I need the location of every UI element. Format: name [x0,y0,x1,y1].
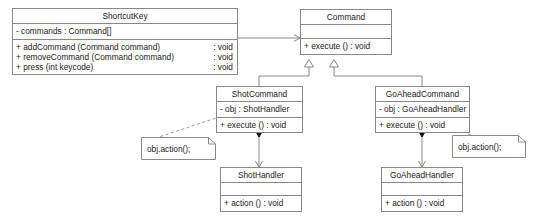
note-text: obj.action(); [147,144,190,154]
attribute-row: - obj : ShotHandler [220,104,298,114]
class-command-operations: + execute () : void [301,39,391,53]
attribute-row: - obj : GoAheadHandler [379,104,465,114]
class-shortcutkey-name: ShortcutKey [13,9,237,24]
operation-row: + execute () : void [304,41,387,51]
class-goaheadcommand-name: GoAheadCommand [376,87,469,102]
class-shotcommand[interactable]: ShotCommand - obj : ShotHandler + execut… [216,86,303,133]
operation-row: + action () : void [385,198,458,208]
class-shotcommand-name: ShotCommand [217,87,302,102]
class-shothandler-name: ShotHandler [221,168,301,183]
operation-row: + removeCommand (Command command) : void [16,52,233,62]
class-goaheadcommand-operations: + execute () : void [376,118,469,132]
operation-row: + execute () : void [220,120,298,130]
operation-signature: + press (int keycode) [16,63,93,71]
class-shothandler-operations: + action () : void [221,196,301,210]
note-shot-objaction[interactable]: obj.action(); [141,137,216,160]
operation-row: + addCommand (Command command) : void [16,42,233,52]
operation-signature: + removeCommand (Command command) [16,53,174,61]
edge-generalization-goaheadcommand-command [330,60,423,87]
attribute-row: - commands : Command[] [16,26,233,36]
class-shotcommand-attributes: - obj : ShotHandler [217,102,302,117]
class-shotcommand-operations: + execute () : void [217,118,302,132]
class-command-name: Command [301,10,391,25]
class-goaheadhandler-attributes [382,183,462,196]
class-shortcutkey-operations: + addCommand (Command command) : void + … [13,40,237,75]
edge-aggregation-shortcutkey-command [231,35,300,42]
note-goahead-objaction[interactable]: obj.action(); [452,135,526,158]
uml-class-diagram: ShortcutKey - commands : Command[] + add… [0,0,533,220]
class-command-attributes [301,25,391,39]
operation-return-type: : void [205,63,233,71]
class-shothandler-attributes [221,183,301,196]
operation-row: + press (int keycode) : void [16,62,233,72]
class-goaheadcommand[interactable]: GoAheadCommand - obj : GoAheadHandler + … [375,86,470,133]
class-goaheadhandler-operations: + action () : void [382,196,462,210]
operation-signature: + addCommand (Command command) [16,43,160,51]
operation-row: + execute () : void [379,120,465,130]
class-shortcutkey[interactable]: ShortcutKey - commands : Command[] + add… [12,8,238,75]
operation-row: + action () : void [224,198,297,208]
note-text: obj.action(); [458,142,501,152]
class-goaheadcommand-attributes: - obj : GoAheadHandler [376,102,469,117]
class-command[interactable]: Command + execute () : void [300,9,392,55]
class-shortcutkey-attributes: - commands : Command[] [13,24,237,39]
class-goaheadhandler-name: GoAheadHandler [382,168,462,183]
operation-return-type: : void [205,53,233,61]
operation-return-type: : void [205,43,233,51]
class-goaheadhandler[interactable]: GoAheadHandler + action () : void [381,167,463,212]
class-shothandler[interactable]: ShotHandler + action () : void [220,167,302,212]
edge-generalization-shotcommand-command [259,60,314,87]
